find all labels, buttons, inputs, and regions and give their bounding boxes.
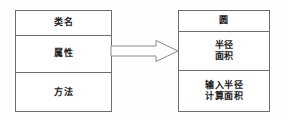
hollow-block-arrow-icon bbox=[110, 38, 180, 64]
connector-arrow[interactable] bbox=[110, 38, 180, 64]
compartment-methods: 方法 bbox=[16, 72, 111, 111]
class-diagram-canvas: 类名 属性 方法 圆 半径 面积 输入半径 计算面积 bbox=[0, 0, 288, 120]
compartment-class-name: 类名 bbox=[16, 11, 111, 35]
method-text-calc-area: 计算面积 bbox=[205, 91, 243, 102]
attribute-text: 属性 bbox=[54, 48, 73, 59]
method-text-input-radius: 输入半径 bbox=[205, 80, 243, 91]
class-box-circle[interactable]: 圆 半径 面积 输入半径 计算面积 bbox=[178, 10, 270, 112]
compartment-attributes: 属性 bbox=[16, 35, 111, 72]
compartment-attributes: 半径 面积 bbox=[179, 31, 269, 70]
class-name-text: 类名 bbox=[54, 17, 73, 28]
compartment-class-name: 圆 bbox=[179, 11, 269, 31]
attribute-text-radius: 半径 bbox=[215, 40, 234, 51]
compartment-methods: 输入半径 计算面积 bbox=[179, 70, 269, 111]
class-name-text: 圆 bbox=[219, 15, 229, 26]
attribute-text-area: 面积 bbox=[215, 51, 234, 62]
method-text: 方法 bbox=[54, 87, 73, 98]
class-box-template[interactable]: 类名 属性 方法 bbox=[15, 10, 112, 112]
